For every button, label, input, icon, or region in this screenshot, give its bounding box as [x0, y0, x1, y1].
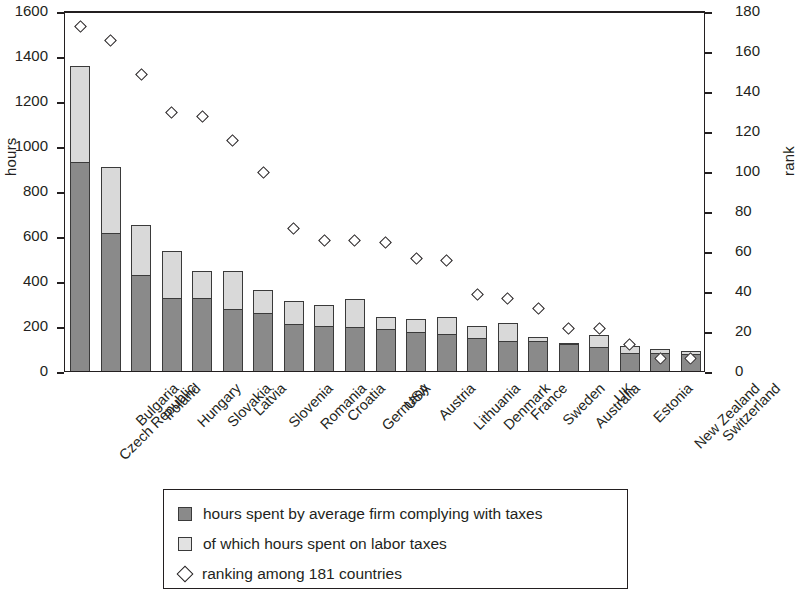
legend-diamond-icon	[177, 566, 194, 583]
legend-item-labor-taxes: of which hours spent on labor taxes	[178, 529, 627, 559]
rank-marker-usa	[379, 236, 392, 249]
y-tick-right-120: 120	[735, 122, 760, 139]
x-label-estonia: Estonia	[650, 380, 696, 426]
legend-swatch-light-icon	[178, 537, 192, 551]
rank-marker-austria	[410, 252, 423, 265]
y-tickmark-right-140	[705, 92, 712, 94]
y-tick-left-1000: 1000	[0, 137, 48, 154]
y-tickmark-right-60	[705, 252, 712, 254]
y-tickmark-left-1400	[57, 57, 64, 59]
plot-area	[64, 12, 705, 372]
rank-marker-croatia	[318, 234, 331, 247]
x-axis-category-labels: Czech RepublicBulgariaPolandHungarySlova…	[0, 372, 793, 482]
rank-marker-switzerland	[684, 352, 697, 365]
y-tickmark-left-1600	[57, 12, 64, 14]
y-tick-left-200: 200	[0, 317, 48, 334]
rank-marker-uk	[593, 322, 606, 335]
y-tick-left-1200: 1200	[0, 92, 48, 109]
y-tick-right-140: 140	[735, 82, 760, 99]
rank-marker-sweden	[532, 302, 545, 315]
rank-marker-lithuania	[440, 254, 453, 267]
rank-marker-germany	[349, 234, 362, 247]
rank-marker-slovakia	[196, 110, 209, 123]
x-label-austria: Austria	[435, 380, 478, 423]
rank-marker-denmark	[471, 288, 484, 301]
y-tickmark-left-0	[57, 372, 64, 374]
rank-markers-layer	[65, 12, 704, 371]
y-tick-right-80: 80	[735, 202, 752, 219]
y-tickmark-right-80	[705, 212, 712, 214]
rank-marker-latvia	[227, 134, 240, 147]
legend-label-labor-taxes: of which hours spent on labor taxes	[203, 535, 447, 553]
rank-marker-new-zealand	[654, 352, 667, 365]
y-tick-left-400: 400	[0, 272, 48, 289]
y-tick-right-20: 20	[735, 322, 752, 339]
y-tickmark-left-600	[57, 237, 64, 239]
y-tickmark-left-200	[57, 327, 64, 329]
rank-marker-bulgaria	[104, 34, 117, 47]
rank-marker-estonia	[623, 338, 636, 351]
rank-marker-australia	[562, 322, 575, 335]
rank-marker-hungary	[165, 106, 178, 119]
legend-item-ranking: ranking among 181 countries	[178, 559, 627, 589]
legend-label-compliance: hours spent by average firm complying wi…	[203, 505, 542, 523]
rank-marker-romania	[288, 222, 301, 235]
y-tick-left-600: 600	[0, 227, 48, 244]
rank-marker-poland	[135, 68, 148, 81]
legend-item-compliance: hours spent by average firm complying wi…	[178, 499, 627, 529]
chart-legend: hours spent by average firm complying wi…	[163, 489, 628, 589]
y-tick-left-1600: 1600	[0, 2, 48, 19]
legend-label-ranking: ranking among 181 countries	[202, 565, 402, 583]
y-tick-left-800: 800	[0, 182, 48, 199]
y-tickmark-right-180	[705, 12, 712, 14]
y-tick-left-1400: 1400	[0, 47, 48, 64]
y-tickmark-left-400	[57, 282, 64, 284]
y-tick-right-100: 100	[735, 162, 760, 179]
y-tickmark-right-160	[705, 52, 712, 54]
y-axis-right-title: rank	[780, 146, 797, 176]
y-tick-right-40: 40	[735, 282, 752, 299]
y-tick-right-160: 160	[735, 42, 760, 59]
legend-swatch-dark-icon	[178, 507, 192, 521]
rank-marker-france	[501, 292, 514, 305]
y-tickmark-left-1200	[57, 102, 64, 104]
y-tickmark-right-100	[705, 172, 712, 174]
y-tick-right-180: 180	[735, 2, 760, 19]
rank-marker-slovenia	[257, 166, 270, 179]
rank-marker-czech-republic	[74, 20, 87, 33]
y-tickmark-right-120	[705, 132, 712, 134]
y-tickmark-right-40	[705, 292, 712, 294]
y-tickmark-right-20	[705, 332, 712, 334]
y-tickmark-right-0	[705, 372, 712, 374]
y-tick-right-60: 60	[735, 242, 752, 259]
y-tickmark-left-800	[57, 192, 64, 194]
y-tickmark-left-1000	[57, 147, 64, 149]
